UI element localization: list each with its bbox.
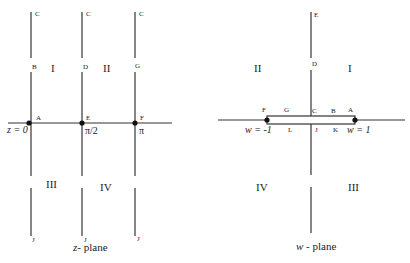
z-label-c2: C bbox=[86, 10, 91, 18]
conformal-map-diagram: C C C B D G A E F J J J z = 0 π/2 π I II… bbox=[0, 0, 410, 263]
z-region-1: I bbox=[51, 62, 55, 74]
z-region-2: II bbox=[103, 62, 111, 74]
w-value-one: w = 1 bbox=[347, 124, 370, 135]
z-region-4: IV bbox=[100, 181, 112, 193]
w-label-a: A bbox=[348, 106, 353, 114]
w-point-one bbox=[352, 117, 357, 122]
z-label-g: G bbox=[135, 62, 140, 70]
z-value-pi-half: π/2 bbox=[85, 125, 98, 136]
w-label-e: E bbox=[314, 11, 318, 19]
w-slit bbox=[267, 116, 355, 124]
w-region-1: I bbox=[348, 62, 352, 74]
w-plane-caption: w - plane bbox=[296, 240, 336, 252]
w-label-g: G bbox=[284, 106, 289, 114]
w-region-4: IV bbox=[256, 181, 268, 193]
z-label-j3: J bbox=[137, 235, 140, 243]
z-value-pi: π bbox=[139, 125, 144, 136]
z-point-e bbox=[79, 120, 84, 125]
w-region-2: II bbox=[254, 62, 262, 74]
w-label-f: F bbox=[262, 106, 266, 114]
w-label-j: J bbox=[315, 126, 318, 134]
z-point-f bbox=[132, 120, 137, 125]
z-plane: C C C B D G A E F J J J z = 0 π/2 π I II… bbox=[6, 10, 172, 253]
w-plane: E D F G C B A L J K w = -1 w = 1 II I IV… bbox=[218, 11, 405, 252]
z-label-c1: C bbox=[35, 10, 40, 18]
z-label-f: F bbox=[140, 114, 144, 122]
w-region-3: III bbox=[348, 181, 359, 193]
z-label-b: B bbox=[32, 63, 37, 71]
z-value-0: z = 0 bbox=[6, 124, 28, 135]
z-label-j1: J bbox=[32, 236, 35, 244]
z-label-d: D bbox=[83, 63, 88, 71]
w-point-minus-one bbox=[264, 117, 269, 122]
w-label-d: D bbox=[312, 60, 317, 68]
w-label-c: C bbox=[312, 107, 317, 115]
z-label-a: A bbox=[36, 114, 41, 122]
w-label-k: K bbox=[333, 126, 338, 134]
z-label-e: E bbox=[86, 114, 90, 122]
z-region-3: III bbox=[46, 178, 57, 190]
w-label-l: L bbox=[288, 126, 292, 134]
z-plane-caption: z- plane bbox=[72, 241, 108, 253]
w-value-minus-one: w = -1 bbox=[245, 124, 272, 135]
w-label-b: B bbox=[331, 107, 336, 115]
z-label-c3: C bbox=[139, 10, 144, 18]
